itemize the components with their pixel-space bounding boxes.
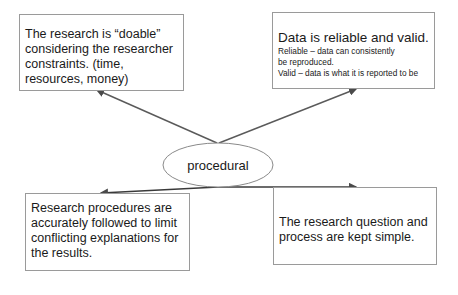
box-doable: The research is “doable” considering the… [19, 14, 184, 91]
box-kept-simple-text: The research question and process are ke… [279, 215, 431, 245]
box-procedures-followed: Research procedures are accurately follo… [25, 193, 190, 271]
arrow-to-top-right [219, 89, 356, 143]
center-node-text: procedural [187, 158, 248, 173]
box-doable-text: The research is “doable” considering the… [25, 27, 178, 87]
box-reliable-valid-heading: Data is reliable and valid. [278, 30, 429, 46]
valid-definition-line: Valid – data is what it is reported to b… [278, 68, 429, 79]
box-reliable-valid: Data is reliable and valid. Reliable – d… [272, 12, 435, 89]
reliable-definition-line-1: Reliable – data can consistently [278, 46, 429, 57]
center-node-label: procedural [163, 143, 273, 187]
arrow-to-top-left [97, 90, 217, 143]
box-kept-simple: The research question and process are ke… [273, 187, 437, 265]
box-procedures-followed-text: Research procedures are accurately follo… [31, 201, 184, 261]
reliable-definition-line-2: be reproduced. [278, 57, 429, 68]
